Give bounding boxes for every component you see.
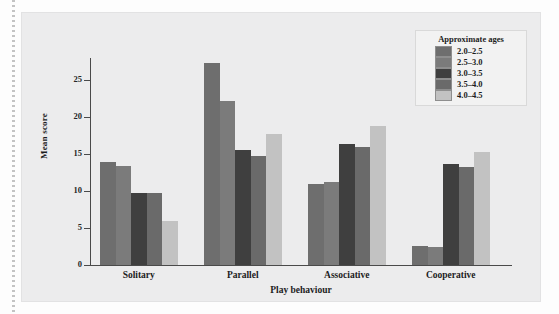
y-axis-title: Mean score [39,96,49,176]
y-tick-label: 10 [58,186,82,195]
bar [324,182,340,265]
y-axis-line [90,58,91,266]
legend-entry-label: 3.0–3.5 [457,69,483,78]
bar [459,167,475,265]
legend-color-swatch [436,91,451,100]
chart-figure-panel: Mean score Play behaviour 0510152025 Sol… [22,13,540,301]
legend-color-swatch [436,80,451,89]
plot-area: Mean score Play behaviour 0510152025 Sol… [22,13,540,301]
legend-color-swatch [436,69,451,78]
x-category-label: Solitary [82,270,196,280]
y-tick-mark [84,228,90,229]
y-tick-label: 15 [58,149,82,158]
y-tick-label: 25 [58,75,82,84]
y-tick-mark [84,154,90,155]
y-tick-label: 5 [58,223,82,232]
x-category-label: Parallel [186,270,300,280]
y-tick-mark [84,191,90,192]
x-category-label: Associative [290,270,404,280]
bar [162,221,178,265]
y-tick-mark [84,117,90,118]
bar [370,126,386,265]
bar [266,134,282,265]
page-canvas: Mean score Play behaviour 0510152025 Sol… [0,0,559,314]
bar [308,184,324,265]
bar [131,193,147,265]
bar [251,156,267,265]
y-tick-mark [84,80,90,81]
bar [428,247,444,265]
legend-entry-label: 2.0–2.5 [457,47,483,56]
bar [443,164,459,265]
bar [474,152,490,265]
legend-color-swatch [436,58,451,67]
bar [147,193,163,265]
x-axis-line [90,265,512,266]
legend-entry-label: 3.5–4.0 [457,80,483,89]
y-tick-label: 0 [58,260,82,269]
legend-color-swatch [436,47,451,56]
bar [116,166,132,265]
legend-entry-label: 2.5–3.0 [457,58,483,67]
x-category-label: Cooperative [394,270,508,280]
bar [235,150,251,265]
bar [339,144,355,265]
bar [204,63,220,265]
legend-entry-label: 4.0–4.5 [457,91,483,100]
y-tick-mark [84,265,90,266]
bar [220,101,236,265]
legend-title: Approximate ages [416,34,526,44]
y-tick-label: 20 [58,112,82,121]
bar [100,162,116,266]
spiral-binding-margin [12,0,15,314]
bar [355,147,371,265]
chart-legend: Approximate ages 2.0–2.52.5–3.03.0–3.53.… [416,31,526,105]
x-axis-title: Play behaviour [90,285,512,295]
bar [412,246,428,265]
